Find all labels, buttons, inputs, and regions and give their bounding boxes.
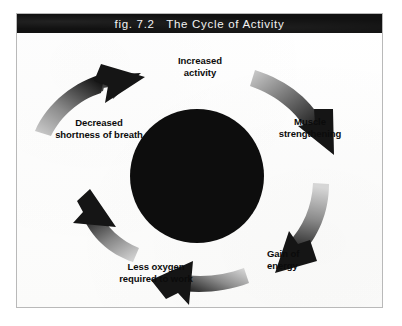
label-gain-of-energy: Gain of energy	[267, 248, 359, 271]
label-decreased-shortness-of-breath: Decreased shortness of breath	[39, 117, 159, 140]
arrow-to-muscle-strengthening	[250, 70, 334, 155]
label-muscle-strengthening: Muscle strengthening	[258, 116, 362, 139]
figure-frame: fig. 7.2 The Cycle of Activity	[16, 13, 383, 308]
label-increased-activity: Increased activity	[145, 55, 255, 78]
label-less-oxygen-required-to-work: Less oxygen required to work	[95, 261, 217, 284]
figure-title: fig. 7.2 The Cycle of Activity	[115, 18, 285, 30]
figure-title-bar: fig. 7.2 The Cycle of Activity	[17, 14, 382, 33]
cycle-diagram: Increased activity Muscle strengthening …	[17, 33, 383, 308]
arrow-to-decreased-shortness	[73, 189, 139, 262]
